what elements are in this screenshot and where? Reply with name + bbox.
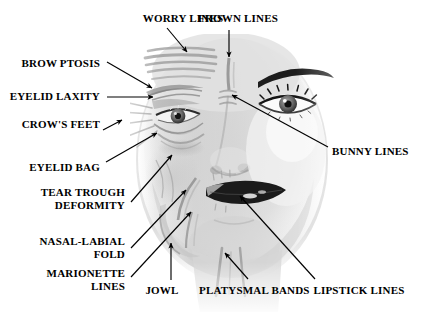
label-line: MARIONETTE	[47, 267, 125, 279]
label-marionette-lines: MARIONETTELINES	[18, 267, 125, 292]
label-line: EYELID BAG	[29, 161, 100, 173]
label-lipstick-lines: LIPSTICK LINES	[312, 284, 406, 297]
label-line: FOLD	[94, 248, 125, 260]
label-crows-feet: CROW'S FEET	[8, 118, 100, 131]
label-line: PLATYSMAL BANDS	[199, 284, 310, 296]
label-line: FROWN LINES	[198, 12, 278, 24]
label-line: CROW'S FEET	[22, 118, 100, 130]
label-line: LINES	[91, 280, 125, 292]
label-line: NASAL-LABIAL	[39, 235, 125, 247]
facial-aging-diagram: WORRY LINESFROWN LINESBROW PTOSISEYELID …	[0, 0, 422, 317]
label-line: EYELID LAXITY	[10, 90, 100, 102]
label-bunny-lines: BUNNY LINES	[332, 145, 420, 158]
label-line: BROW PTOSIS	[21, 57, 100, 69]
label-platysmal-bands: PLATYSMAL BANDS	[199, 284, 303, 297]
label-frown-lines: FROWN LINES	[192, 12, 284, 25]
label-eyelid-laxity: EYELID LAXITY	[8, 90, 100, 103]
label-jowl: JOWL	[142, 284, 182, 297]
label-line: DEFORMITY	[55, 199, 125, 211]
label-eyelid-bag: EYELID BAG	[18, 161, 100, 174]
label-nasal-labial-fold: NASAL-LABIALFOLD	[18, 235, 125, 260]
label-line: JOWL	[145, 284, 178, 296]
label-line: TEAR TROUGH	[41, 186, 125, 198]
label-tear-trough-deformity: TEAR TROUGHDEFORMITY	[18, 186, 125, 211]
label-line: BUNNY LINES	[332, 145, 409, 157]
label-line: LIPSTICK LINES	[313, 284, 404, 296]
label-brow-ptosis: BROW PTOSIS	[8, 57, 100, 70]
